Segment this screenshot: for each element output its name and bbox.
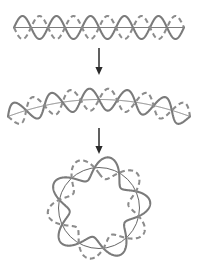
reference-orbit-circle <box>59 168 140 249</box>
arrow-top-head <box>95 67 102 75</box>
arrow-bottom <box>95 128 102 154</box>
standing-wave-diagram <box>0 0 198 263</box>
arrow-top <box>95 48 102 75</box>
panel-circular-standing-wave <box>48 157 150 258</box>
panel-straight-standing-wave <box>14 16 184 39</box>
figure-container <box>0 0 198 263</box>
circular-wave-solid-phase <box>53 157 150 255</box>
panel-bent-standing-wave <box>8 89 190 124</box>
arrow-bottom-head <box>95 146 102 154</box>
bent-wave-axis <box>8 100 190 117</box>
